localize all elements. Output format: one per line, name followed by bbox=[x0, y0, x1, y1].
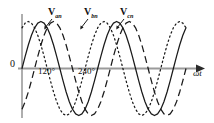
curve-label-vbn: Vbn bbox=[84, 6, 98, 19]
curve-label-van: Van bbox=[48, 6, 62, 19]
waveform-plot bbox=[0, 0, 214, 123]
waveform-figure: 0 Van Vbn Vcn 120° 240° ωt bbox=[0, 0, 214, 123]
vcn-subscript: cn bbox=[127, 12, 133, 19]
x-axis-label: ωt bbox=[193, 68, 202, 78]
van-subscript: an bbox=[55, 12, 62, 19]
curve-label-vcn: Vcn bbox=[120, 6, 133, 19]
origin-label: 0 bbox=[10, 58, 15, 69]
vbn-subscript: bn bbox=[91, 12, 98, 19]
x-tick-label-120: 120° bbox=[38, 66, 55, 76]
x-tick-label-240: 240° bbox=[78, 66, 95, 76]
